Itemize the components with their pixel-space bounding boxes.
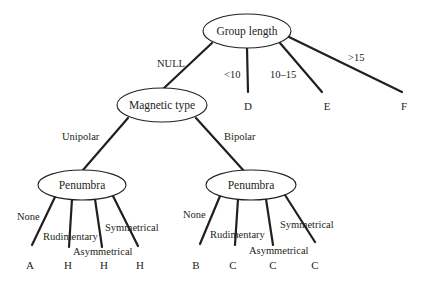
leaf-c-2: C — [269, 259, 276, 271]
edge-label-null: NULL — [157, 58, 185, 69]
edge-label-right-none: None — [183, 209, 206, 220]
edge-label-lt10: <10 — [224, 69, 240, 80]
edge-label-left-asymmetrical: Asymmetrical — [73, 246, 133, 257]
leaf-a: A — [26, 259, 34, 271]
edge-gt15 — [289, 37, 402, 92]
leaf-c-3: C — [311, 259, 318, 271]
leaf-h-3: H — [136, 259, 144, 271]
node-label: Magnetic type — [129, 99, 195, 112]
edge-label-right-rudimentary: Rudimentary — [210, 229, 266, 240]
leaf-d: D — [244, 100, 252, 112]
edge-bipolar — [196, 118, 244, 171]
edge-left-symmetrical — [113, 196, 138, 246]
edge-label-10-15: 10–15 — [270, 69, 296, 80]
edge-right-asymmetrical — [266, 199, 273, 245]
leaf-b: B — [192, 259, 199, 271]
node-label: Penumbra — [228, 179, 275, 191]
leaf-e: E — [324, 100, 331, 112]
edge-label-unipolar: Unipolar — [62, 131, 100, 142]
leaf-f: F — [401, 100, 407, 112]
decision-tree-diagram: Group length Magnetic type Penumbra Penu… — [0, 0, 423, 282]
node-group-length: Group length — [203, 14, 291, 48]
node-label: Penumbra — [59, 179, 106, 191]
node-magnetic-type: Magnetic type — [117, 88, 207, 122]
node-penumbra-right: Penumbra — [206, 170, 296, 200]
node-penumbra-left: Penumbra — [38, 170, 126, 200]
edge-label-left-none: None — [17, 211, 40, 222]
edge-lt10 — [247, 48, 248, 92]
edge-unipolar — [83, 118, 128, 170]
node-label: Group length — [216, 25, 277, 38]
leaf-c-1: C — [229, 259, 236, 271]
leaf-h-2: H — [100, 259, 108, 271]
edge-label-right-asymmetrical: Asymmetrical — [249, 245, 309, 256]
edge-label-gt15: >15 — [348, 52, 364, 63]
edge-label-right-symmetrical: Symmetrical — [280, 219, 334, 230]
edge-label-left-rudimentary: Rudimentary — [43, 231, 99, 242]
edge-label-bipolar: Bipolar — [224, 131, 256, 142]
edge-label-left-symmetrical: Symmetrical — [105, 222, 159, 233]
leaf-h-1: H — [64, 259, 72, 271]
